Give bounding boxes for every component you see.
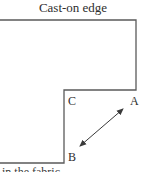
point-c-label: C xyxy=(68,95,76,107)
fabric-outline xyxy=(0,20,136,163)
point-b-label: B xyxy=(68,151,76,163)
bottom-caption-partial: in the fabric xyxy=(2,166,60,172)
knitting-shape-diagram xyxy=(0,0,146,172)
measurement-arrow xyxy=(80,109,123,146)
point-a-label: A xyxy=(130,95,139,107)
